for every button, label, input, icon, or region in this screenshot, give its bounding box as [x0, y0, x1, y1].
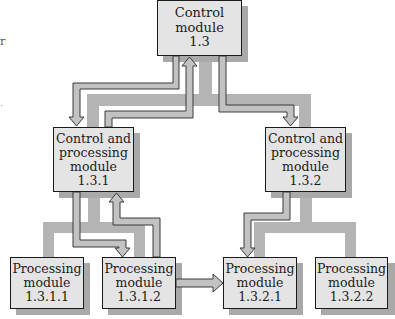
- node-label-line: module: [237, 276, 284, 290]
- node-label-line: module: [328, 276, 375, 290]
- node-control-processing-module-1-3-1: Control and processing module 1.3.1: [53, 127, 134, 192]
- node-label-line: module: [175, 21, 224, 36]
- node-label-line: module: [24, 276, 71, 290]
- node-id: 1.3.2: [290, 174, 322, 188]
- node-id: 1.3.1: [78, 174, 110, 188]
- node-label-line: Processing: [104, 262, 173, 276]
- node-label-line: module: [116, 276, 163, 290]
- arrow-1-3-to-1-3-2: [219, 56, 298, 126]
- node-label-line: Processing: [225, 262, 294, 276]
- node-processing-module-1-3-1-2: Processing module 1.3.1.2: [102, 257, 176, 309]
- arrow-1-3-2-to-1-3-2-1: [240, 192, 290, 257]
- node-processing-module-1-3-2-2: Processing module 1.3.2.2: [315, 257, 388, 309]
- node-processing-module-1-3-1-1: Processing module 1.3.1.1: [10, 257, 84, 309]
- node-label-line: Control: [175, 6, 225, 21]
- node-processing-module-1-3-2-1: Processing module 1.3.2.1: [223, 257, 297, 309]
- node-id: 1.3.1.1: [25, 290, 69, 304]
- stray-mark: ·: [0, 100, 3, 111]
- node-label-line: module: [70, 160, 117, 174]
- node-label-line: Control and: [56, 132, 131, 146]
- node-id: 1.3.1.2: [117, 290, 161, 304]
- node-label-line: Control and: [268, 132, 343, 146]
- arrow-1-3-1-to-1-3: [105, 57, 197, 127]
- node-label-line: Processing: [12, 262, 81, 276]
- node-id: 1.3.2.2: [330, 290, 374, 304]
- node-id: 1.3: [189, 35, 210, 50]
- arrow-1-3-1-2-to-1-3-2-1: [176, 274, 223, 292]
- node-control-module-1-3: Control module 1.3: [157, 0, 242, 56]
- node-id: 1.3.2.1: [238, 290, 282, 304]
- node-control-processing-module-1-3-2: Control and processing module 1.3.2: [265, 127, 346, 192]
- node-label-line: processing: [271, 146, 340, 160]
- node-label-line: processing: [59, 146, 128, 160]
- node-label-line: module: [282, 160, 329, 174]
- stray-mark: r: [0, 35, 5, 48]
- node-label-line: Processing: [317, 262, 386, 276]
